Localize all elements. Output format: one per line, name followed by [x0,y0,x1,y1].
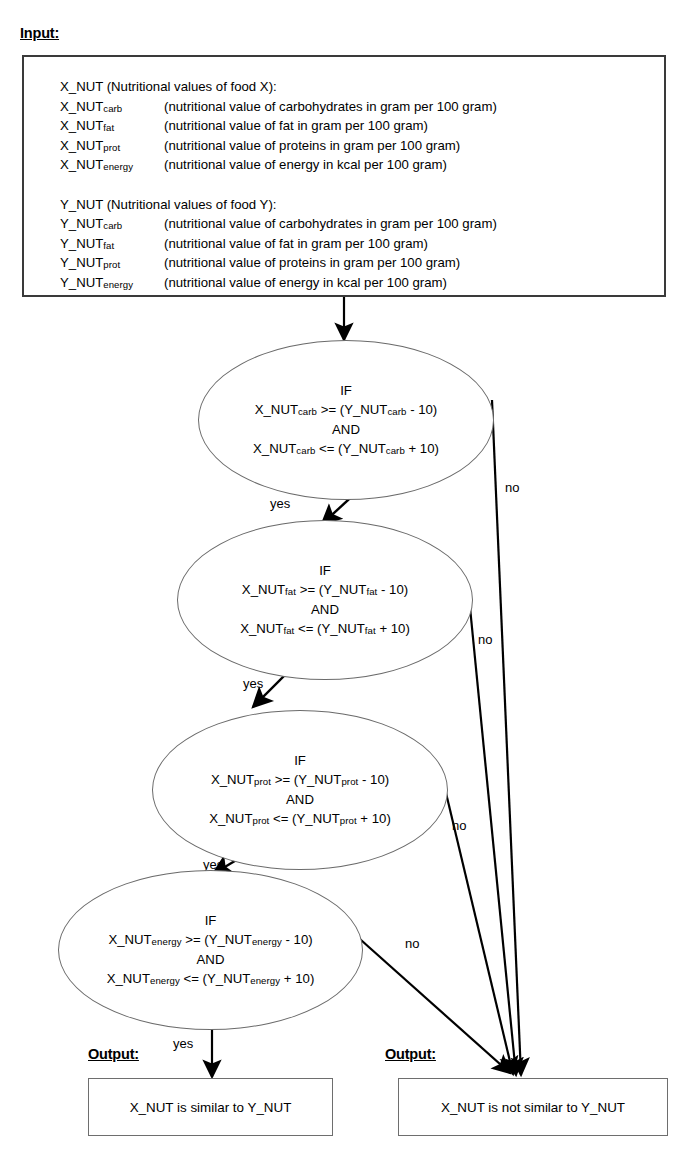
input-text-block: X_NUT (Nutritional values of food X): X_… [60,77,497,293]
input-row-y-fat: Y_NUTfat(nutritional value of fat in gra… [60,234,497,254]
edge-label-energy-yes: yes [173,1036,193,1051]
decision-node-energy: IF X_NUTenergy >= (Y_NUTenergy - 10) AND… [58,870,363,1030]
decision-condition-upper: X_NUTprot <= (Y_NUTprot + 10) [209,809,391,829]
input-row-subscript: energy [103,161,133,172]
input-row-y-prot: Y_NUTprot(nutritional value of proteins … [60,253,497,273]
input-heading-y: Y_NUT (Nutritional values of food Y): [60,195,497,215]
decision-node-prot: IF X_NUTprot >= (Y_NUTprot - 10) AND X_N… [152,710,448,870]
input-row-x-carb: X_NUTcarb(nutritional value of carbohydr… [60,97,497,117]
output-label-right: Output: [385,1046,436,1062]
input-spacer [60,175,497,195]
decision-condition-lower: X_NUTprot >= (Y_NUTprot - 10) [211,770,389,790]
input-row-x-energy: X_NUTenergy(nutritional value of energy … [60,155,497,175]
input-row-name: X_NUT [60,157,103,172]
input-row-desc: (nutritional value of carbohydrates in g… [164,214,497,234]
input-row-x-fat: X_NUTfat(nutritional value of fat in gra… [60,116,497,136]
input-row-desc: (nutritional value of energy in kcal per… [164,155,447,175]
input-row-name: X_NUT [60,99,103,114]
input-row-y-carb: Y_NUTcarb(nutritional value of carbohydr… [60,214,497,234]
output-text-not-similar: X_NUT is not similar to Y_NUT [441,1100,625,1115]
decision-condition-upper: X_NUTfat <= (Y_NUTfat + 10) [240,619,410,639]
input-row-desc: (nutritional value of fat in gram per 10… [164,116,428,136]
input-row-y-energy: Y_NUTenergy(nutritional value of energy … [60,273,497,293]
decision-if-keyword: IF [294,751,306,770]
decision-and-keyword: AND [197,950,225,969]
decision-node-carb: IF X_NUTcarb >= (Y_NUTcarb - 10) AND X_N… [198,340,494,500]
decision-if-keyword: IF [205,911,217,930]
decision-and-keyword: AND [311,600,339,619]
input-row-desc: (nutritional value of proteins in gram p… [164,253,460,273]
input-row-subscript: energy [103,279,133,290]
decision-condition-upper: X_NUTenergy <= (Y_NUTenergy + 10) [107,969,315,989]
input-row-name: X_NUT [60,118,103,133]
decision-node-fat: IF X_NUTfat >= (Y_NUTfat - 10) AND X_NUT… [177,520,473,680]
output-box-not-similar: X_NUT is not similar to Y_NUT [398,1078,668,1136]
input-heading-x: X_NUT (Nutritional values of food X): [60,77,497,97]
input-row-subscript: fat [103,240,114,251]
edge-label-energy-no: no [405,936,419,951]
input-row-name: Y_NUT [60,216,103,231]
input-row-desc: (nutritional value of carbohydrates in g… [164,97,497,117]
edge-carb-no [492,400,521,1075]
decision-condition-lower: X_NUTfat >= (Y_NUTfat - 10) [242,580,408,600]
input-row-desc: (nutritional value of proteins in gram p… [164,136,460,156]
flowchart-page: Input: X_NUT (Nutritional values of food… [0,0,696,1165]
decision-and-keyword: AND [332,420,360,439]
decision-condition-lower: X_NUTcarb >= (Y_NUTcarb - 10) [255,400,438,420]
input-row-name: Y_NUT [60,275,103,290]
decision-and-keyword: AND [286,790,314,809]
input-row-name: Y_NUT [60,255,103,270]
output-box-similar: X_NUT is similar to Y_NUT [88,1078,333,1136]
edge-label-prot-no: no [452,818,466,833]
edge-label-fat-yes: yes [243,676,263,691]
input-row-subscript: prot [103,259,120,270]
edge-label-carb-yes: yes [270,496,290,511]
input-row-name: Y_NUT [60,236,103,251]
input-label: Input: [20,25,59,41]
input-row-name: X_NUT [60,138,103,153]
decision-condition-lower: X_NUTenergy >= (Y_NUTenergy - 10) [108,930,312,950]
input-box: X_NUT (Nutritional values of food X): X_… [22,55,666,297]
decision-if-keyword: IF [319,561,331,580]
edge-label-carb-no: no [505,480,519,495]
input-row-desc: (nutritional value of energy in kcal per… [164,273,447,293]
output-text-similar: X_NUT is similar to Y_NUT [130,1100,292,1115]
edge-fat-no [468,587,516,1075]
input-row-subscript: fat [103,122,114,133]
edge-label-fat-no: no [478,632,492,647]
input-row-subscript: prot [103,142,120,153]
input-row-subscript: carb [103,103,122,114]
input-row-x-prot: X_NUTprot(nutritional value of proteins … [60,136,497,156]
output-label-left: Output: [88,1046,139,1062]
decision-if-keyword: IF [340,381,352,400]
decision-condition-upper: X_NUTcarb <= (Y_NUTcarb + 10) [253,439,439,459]
input-row-desc: (nutritional value of fat in gram per 10… [164,234,428,254]
input-row-subscript: carb [103,220,122,231]
